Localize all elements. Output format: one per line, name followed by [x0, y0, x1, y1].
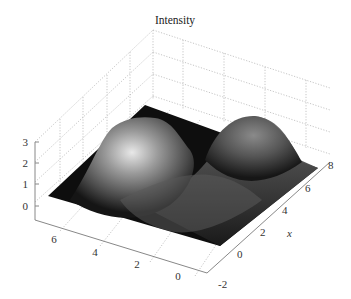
z-tick-3: 3	[23, 136, 29, 148]
x-tick-4: 4	[282, 204, 288, 216]
y-tick-6: 6	[51, 233, 57, 245]
x-tick-neg2: -2	[218, 278, 227, 290]
x-tick-0: 0	[237, 248, 243, 260]
y-tick-2: 2	[134, 258, 140, 270]
surface-plot: Intensity	[0, 0, 351, 299]
x-axis-label: x	[286, 227, 292, 239]
chart-title: Intensity	[155, 14, 195, 27]
x-tick-8: 8	[328, 159, 334, 171]
z-tick-2: 2	[23, 157, 29, 169]
x-tick-2: 2	[260, 226, 266, 238]
y-tick-0: 0	[175, 270, 181, 282]
x-tick-6: 6	[305, 182, 311, 194]
z-tick-1: 1	[23, 178, 29, 190]
z-tick-0: 0	[23, 200, 29, 212]
y-tick-4: 4	[92, 246, 98, 258]
z-axis: 3 2 1 0	[23, 136, 40, 220]
